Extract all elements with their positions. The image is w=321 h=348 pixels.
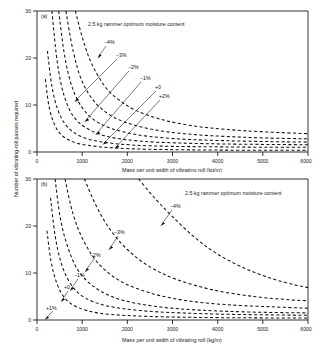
panel-a-tag: (a) bbox=[41, 13, 48, 19]
figure-container: Number of vibrating-roll passes required… bbox=[0, 0, 321, 348]
curve--1% bbox=[52, 11, 308, 145]
panel-b-label-minus1: −1% bbox=[74, 272, 85, 278]
panel-a-y-ticks: 0 10 20 30 bbox=[25, 8, 37, 155]
curve--1% bbox=[55, 179, 308, 313]
chart-panel-b: 0 10 20 30 0 1000 2000 3000 4000 5000 bbox=[0, 168, 321, 348]
panel-a-ytick-0: 0 bbox=[28, 149, 31, 155]
panel-a-label-minus4: −4% bbox=[104, 39, 115, 45]
top-margin-strip bbox=[0, 0, 321, 5]
panel-b-xtick-5000: 5000 bbox=[257, 326, 268, 332]
panel-b-ytick-30: 30 bbox=[25, 176, 31, 182]
panel-a-xtick-2000: 2000 bbox=[122, 158, 133, 164]
panel-b-svg: 0 10 20 30 0 1000 2000 3000 4000 5000 bbox=[0, 168, 321, 348]
panel-b-xtick-0: 0 bbox=[36, 326, 39, 332]
panel-a-xtick-6000: 6000 bbox=[300, 158, 311, 164]
panel-b-tag: (b) bbox=[41, 181, 48, 187]
panel-a-frame bbox=[37, 11, 308, 152]
panel-b-xtick-6000: 6000 bbox=[300, 326, 311, 332]
panel-b-xtick-3000: 3000 bbox=[167, 326, 178, 332]
panel-a-xtick-3000: 3000 bbox=[167, 158, 178, 164]
panel-b-ytick-10: 10 bbox=[25, 270, 31, 276]
panel-a-label-plus0: +0 bbox=[155, 84, 161, 90]
panel-b-label-minus3: −3% bbox=[114, 229, 125, 235]
panel-b-xtick-1000: 1000 bbox=[77, 326, 88, 332]
panel-b-y-ticks: 0 10 20 30 bbox=[25, 176, 37, 323]
panel-b-frame bbox=[37, 179, 308, 320]
panel-a-xtick-1000: 1000 bbox=[77, 158, 88, 164]
panel-b-xtick-4000: 4000 bbox=[212, 326, 223, 332]
panel-b-x-axis-title: Mass per unit width of vibrating roll (k… bbox=[122, 337, 222, 343]
panel-b-xtick-2000: 2000 bbox=[122, 326, 133, 332]
panel-b-ytick-0: 0 bbox=[28, 317, 31, 323]
curve--3% bbox=[66, 11, 308, 139]
panel-b-label-plus1: +1% bbox=[46, 305, 57, 311]
curve-+1% bbox=[47, 231, 308, 318]
panel-a-xtick-0: 0 bbox=[36, 158, 39, 164]
panel-a-x-ticks: 0 1000 2000 3000 4000 5000 6000 bbox=[36, 152, 312, 164]
panel-a-ytick-20: 20 bbox=[25, 55, 31, 61]
panel-a-leaders bbox=[74, 46, 160, 149]
curve--3% bbox=[84, 179, 308, 301]
panel-b-x-ticks: 0 1000 2000 3000 4000 5000 6000 bbox=[36, 320, 312, 332]
curve--2% bbox=[65, 179, 308, 308]
panel-a-curves bbox=[45, 11, 308, 150]
panel-a-ytick-10: 10 bbox=[25, 102, 31, 108]
panel-b-label-minus2: −2% bbox=[90, 252, 101, 258]
panel-b-leaders bbox=[45, 210, 172, 320]
panel-a-xtick-4000: 4000 bbox=[212, 158, 223, 164]
panel-a-label-minus2: −2% bbox=[128, 64, 139, 70]
panel-a-note: 2.5 kg rammer optimum moisture content bbox=[88, 21, 185, 27]
panel-a-xtick-5000: 5000 bbox=[257, 158, 268, 164]
curve--2% bbox=[59, 11, 308, 142]
panel-b-label-plus0: +0 bbox=[64, 284, 70, 290]
chart-panel-a: 0 10 20 30 0 1000 2000 3000 4000 5000 bbox=[0, 0, 321, 172]
panel-b-curves bbox=[47, 179, 308, 318]
curve-+2% bbox=[45, 79, 308, 150]
panel-a-curve-labels: −4% −3% −2% −1% +0 +2% bbox=[104, 39, 170, 99]
panel-a-svg: 0 10 20 30 0 1000 2000 3000 4000 5000 bbox=[0, 0, 321, 172]
panel-b-label-minus4: −4% bbox=[170, 203, 181, 209]
panel-b-curve-labels: −4% −3% −2% −1% +0 +1% bbox=[46, 203, 181, 311]
panel-a-label-minus3: −3% bbox=[116, 52, 127, 58]
panel-b-ytick-20: 20 bbox=[25, 223, 31, 229]
panel-a-label-plus2: +2% bbox=[159, 93, 170, 99]
panel-a-label-minus1: −1% bbox=[140, 75, 151, 81]
panel-b-note: 2.5 kg rammer optimum moisture content bbox=[185, 190, 282, 196]
panel-a-ytick-30: 30 bbox=[25, 8, 31, 14]
